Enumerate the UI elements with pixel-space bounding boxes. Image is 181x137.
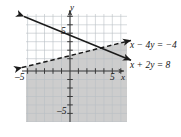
y-axis-tick-label-5: 5	[61, 26, 66, 36]
x-axis-label: x	[121, 72, 125, 82]
y-axis-tick-label-negative-5: –5	[57, 106, 67, 116]
y-axis-label: y	[70, 2, 74, 12]
x-axis-tick-label-negative-5: –5	[15, 72, 25, 82]
x-axis-tick-label-5: 5	[110, 72, 115, 82]
graph-figure: x − 4y = −4 x + 2y = 8 y x 5 –5 5 –5	[0, 0, 181, 137]
equation-label-dashed-line: x − 4y = −4	[130, 40, 177, 50]
equation-label-solid-line: x + 2y = 8	[130, 60, 170, 70]
